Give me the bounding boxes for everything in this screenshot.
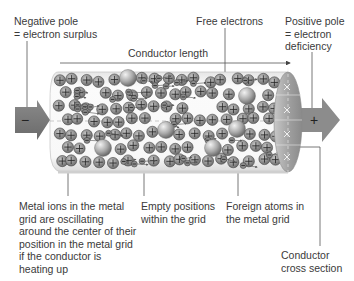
metal-ion xyxy=(189,128,200,139)
metal-ion xyxy=(144,142,155,153)
metal-ion xyxy=(94,157,105,168)
metal-ion xyxy=(139,113,150,124)
metal-ion xyxy=(174,129,185,140)
metal-ion xyxy=(93,76,104,87)
metal-ion xyxy=(80,156,91,167)
metal-ion xyxy=(54,75,65,86)
metal-ion xyxy=(258,73,269,84)
metal-ion xyxy=(182,113,193,124)
metal-ion xyxy=(223,89,234,100)
conductor-length-label: Conductor length xyxy=(128,47,208,60)
metal-ion xyxy=(194,115,205,126)
metal-ion xyxy=(182,142,193,153)
foreign-atom xyxy=(95,140,112,157)
metal-ion xyxy=(88,116,99,127)
metal-ion xyxy=(207,114,218,125)
free-electrons-label: Free electrons xyxy=(196,15,263,28)
foreign-atom xyxy=(239,88,256,105)
metal-ion xyxy=(217,128,228,139)
metal-ion xyxy=(232,73,243,84)
metal-ion xyxy=(148,101,159,112)
empty-positions-label: Empty positions within the grid xyxy=(141,200,215,225)
metal-ion xyxy=(141,87,152,98)
metal-ion xyxy=(170,89,181,100)
metal-ion xyxy=(54,128,65,139)
metal-ion xyxy=(60,87,71,98)
negative-pole-arrow: − xyxy=(15,100,50,140)
metal-ion xyxy=(215,74,226,85)
metal-ion xyxy=(97,104,108,115)
metal-ion xyxy=(121,128,132,139)
cross-section-label: Conductor cross section xyxy=(281,249,342,274)
metal-ion xyxy=(207,87,218,98)
minus-symbol: − xyxy=(21,112,29,128)
foreign-atoms-label: Foreign atoms in the metal grid xyxy=(226,200,304,225)
metal-ion xyxy=(237,140,248,151)
metal-ion xyxy=(217,101,228,112)
foreign-atom xyxy=(229,121,246,138)
metal-ion xyxy=(107,157,118,168)
metal-ion xyxy=(263,90,274,101)
positive-pole-arrow: + xyxy=(300,98,340,142)
metal-ion xyxy=(66,155,77,166)
metal-ion xyxy=(109,74,120,85)
plus-symbol: + xyxy=(310,112,318,128)
metal-ion xyxy=(136,99,147,110)
metal-ion xyxy=(259,129,270,140)
metal-ion xyxy=(53,100,64,111)
negative-pole-label: Negative pole = electron surplus xyxy=(14,15,97,40)
metal-ion xyxy=(189,154,200,165)
metal-ion xyxy=(62,141,73,152)
metal-ion xyxy=(177,103,188,114)
metal-ion xyxy=(228,104,239,115)
metal-ion xyxy=(257,101,268,112)
metal-ion xyxy=(100,87,111,98)
metal-ion xyxy=(113,117,124,128)
metal-ion xyxy=(126,113,137,124)
metal-ion xyxy=(72,113,83,124)
metal-ion xyxy=(156,141,167,152)
metal-ion xyxy=(66,73,77,84)
foreign-atom xyxy=(205,140,222,157)
metal-ions-label: Metal ions in the metal grid are oscilla… xyxy=(19,200,136,275)
positive-pole-label: Positive pole = electron deficiency xyxy=(285,15,345,53)
metal-ion xyxy=(102,117,113,128)
metal-ion xyxy=(111,103,122,114)
metal-ion xyxy=(170,143,181,154)
metal-ion xyxy=(248,112,259,123)
metal-ion xyxy=(115,144,126,155)
metal-ion xyxy=(195,86,206,97)
foreign-atom xyxy=(158,122,175,139)
metal-ion xyxy=(128,140,139,151)
metal-ion xyxy=(81,74,92,85)
metal-ion xyxy=(264,113,275,124)
foreign-atom xyxy=(120,70,137,87)
metal-ion xyxy=(74,143,85,154)
metal-ion xyxy=(202,155,213,166)
metal-ion xyxy=(147,126,158,137)
metal-ion xyxy=(244,128,255,139)
metal-ion xyxy=(163,73,174,84)
metal-ion xyxy=(261,142,272,153)
metal-ion xyxy=(228,157,239,168)
metal-ion xyxy=(250,140,261,151)
metal-ion xyxy=(65,130,76,141)
